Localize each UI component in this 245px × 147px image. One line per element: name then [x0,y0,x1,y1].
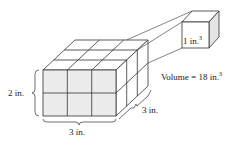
volume-label: Volume = 18 in.3 [161,71,222,82]
depth-label: 3 in. [142,105,158,115]
width-brace [43,119,116,125]
width-label: 3 in. [69,127,85,137]
height-label: 2 in. [8,88,24,98]
large-prism [43,40,148,116]
height-brace [32,70,39,116]
volume-diagram: 1 in.3 Volume = 18 in.3 2 in. 3 in. 3 in… [0,0,245,147]
diagram-canvas: 1 in.3 Volume = 18 in.3 2 in. 3 in. 3 in… [0,0,245,147]
